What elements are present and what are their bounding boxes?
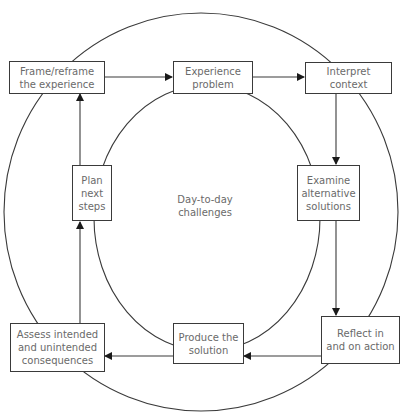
node-frame-reframe-experience: Frame/reframe the experience bbox=[9, 61, 105, 94]
node-reflect-in-and-on-action: Reflect in and on action bbox=[321, 316, 400, 364]
node-experience-problem: Experience problem bbox=[173, 61, 253, 94]
node-examine-alternative-solutions: Examine alternative solutions bbox=[297, 165, 360, 221]
node-produce-the-solution: Produce the solution bbox=[173, 323, 244, 364]
center-label-day-to-day-challenges: Day-to-day challenges bbox=[160, 193, 250, 219]
node-interpret-context: Interpret context bbox=[305, 62, 392, 94]
node-plan-next-steps: Plan next steps bbox=[72, 165, 112, 221]
node-assess-consequences: Assess intended and unintended consequen… bbox=[10, 323, 105, 372]
